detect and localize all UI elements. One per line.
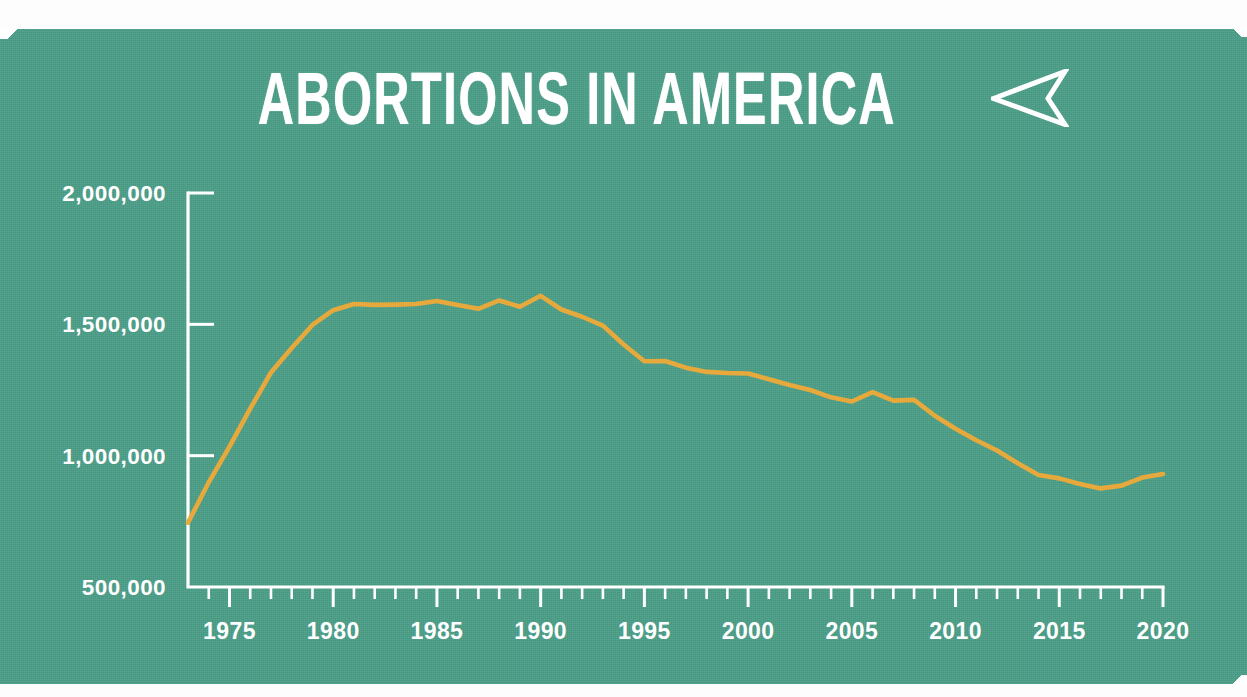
chart-card: ABORTIONS IN AMERICA 2,000,0001,500,0001…	[0, 29, 1247, 684]
y-axis-tick-label: 2,000,000	[62, 181, 166, 206]
x-axis-tick-label: 1990	[514, 618, 567, 644]
y-axis	[188, 193, 1163, 587]
x-axis-tick-label: 2010	[929, 618, 982, 644]
plot-area: 2,000,0001,500,0001,000,000500,000 19751…	[0, 29, 1247, 684]
line-chart-svg: 2,000,0001,500,0001,000,000500,000 19751…	[0, 29, 1247, 684]
x-axis-tick-label: 2005	[825, 618, 878, 644]
x-axis	[209, 587, 1163, 607]
y-axis-labels: 2,000,0001,500,0001,000,000500,000	[62, 181, 166, 600]
data-series-group	[188, 296, 1163, 523]
x-axis-tick-label: 2000	[722, 618, 775, 644]
x-axis-labels: 1975198019851990199520002005201020152020	[203, 618, 1189, 644]
x-axis-tick-label: 1975	[203, 618, 256, 644]
screenshot-stage: ABORTIONS IN AMERICA 2,000,0001,500,0001…	[0, 0, 1247, 697]
x-axis-tick-label: 1980	[307, 618, 360, 644]
y-axis-tick-label: 500,000	[82, 575, 166, 600]
x-axis-tick-label: 2020	[1137, 618, 1190, 644]
x-axis-tick-label: 1995	[618, 618, 671, 644]
y-axis-tick-label: 1,000,000	[62, 444, 166, 469]
x-axis-tick-label: 1985	[411, 618, 464, 644]
y-axis-tick-label: 1,500,000	[62, 312, 166, 337]
x-axis-tick-label: 2015	[1033, 618, 1086, 644]
data-line-abortions	[188, 296, 1163, 523]
